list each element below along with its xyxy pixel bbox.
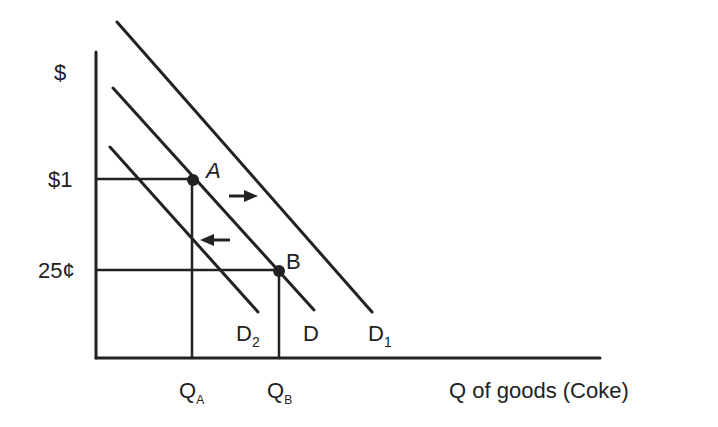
point-a-marker [187, 174, 199, 186]
demand-curve-d1 [117, 22, 372, 312]
demand-curve-d [113, 88, 314, 310]
price-tick-1: $1 [48, 169, 72, 191]
point-b-label: B [286, 251, 301, 273]
y-axis-label: $ [54, 62, 66, 84]
qb-sub: B [284, 393, 292, 407]
point-a-label: A [206, 160, 221, 182]
x-axis-label: Q of goods (Coke) [449, 380, 629, 402]
d-main: D [303, 321, 319, 346]
arrow-right-icon [229, 190, 258, 202]
qa-tick: QA [179, 380, 204, 406]
arrow-left-icon [200, 234, 230, 246]
qb-tick: QB [267, 380, 292, 406]
demand-chart [0, 0, 718, 427]
d2-sub: 2 [252, 334, 260, 350]
d2-label: D2 [236, 323, 260, 349]
d1-main: D [368, 321, 384, 346]
qa-main: Q [179, 378, 196, 403]
point-b-marker [273, 265, 285, 277]
d-label: D [303, 323, 319, 345]
d1-label: D1 [368, 323, 392, 349]
d1-sub: 1 [384, 334, 392, 350]
price-tick-25: 25¢ [38, 260, 75, 282]
qb-main: Q [267, 378, 284, 403]
demand-curve-d2 [110, 147, 258, 312]
qa-sub: A [196, 393, 204, 407]
d2-main: D [236, 321, 252, 346]
